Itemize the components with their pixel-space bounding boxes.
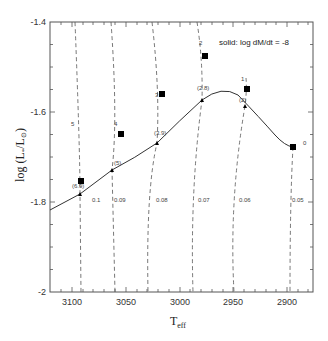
y-axis-ticks <box>50 45 313 270</box>
plot-frame <box>50 22 313 292</box>
curve-markers <box>78 98 247 196</box>
y-axis-title: log (L*/L⊙) <box>13 128 28 182</box>
square-marker <box>290 144 296 150</box>
x-tick-label: 3000 <box>170 297 190 307</box>
x-axis-title: Teff <box>170 314 186 330</box>
track-0.08 <box>148 22 158 292</box>
solid-mass-loss-curve <box>50 91 293 210</box>
curve-label: (2.8) <box>197 85 209 91</box>
track-label: 0.05 <box>292 197 304 203</box>
y-tick-label: -1.6 <box>30 107 46 117</box>
x-axis-ticks <box>61 22 308 292</box>
curve-label: (3.9) <box>154 130 166 136</box>
track-label: 0.07 <box>198 197 210 203</box>
square-label: 2 <box>199 40 203 46</box>
track-label: 0.1 <box>92 197 101 203</box>
square-marker <box>118 131 124 137</box>
track-0.07 <box>192 22 202 292</box>
curve-label: (5) <box>114 160 121 166</box>
square-marker <box>159 91 165 97</box>
triangle-marker <box>243 104 247 108</box>
y-tick-label: -2 <box>38 287 46 297</box>
square-label: 5 <box>71 121 75 127</box>
square-label: 3 <box>155 92 159 98</box>
square-points <box>78 53 296 184</box>
x-tick-label: 3050 <box>116 297 136 307</box>
square-label: 0 <box>303 140 307 146</box>
square-marker <box>78 178 84 184</box>
x-tick-label: 2950 <box>223 297 243 307</box>
track-0.06 <box>233 78 247 292</box>
hr-diagram-chart: -1.4 -1.6 -1.8 -2 3100 3050 3000 2950 29… <box>0 0 328 341</box>
triangle-marker <box>110 168 114 172</box>
track-label: 0.06 <box>239 197 251 203</box>
square-label: 1 <box>241 76 245 82</box>
curve-label: (2) <box>239 97 246 103</box>
square-marker <box>202 53 208 59</box>
y-tick-label: -1.8 <box>30 197 46 207</box>
y-tick-label: -1.4 <box>30 17 46 27</box>
track-0.05 <box>290 147 293 292</box>
track-label: 0.09 <box>114 197 126 203</box>
x-tick-label: 3100 <box>62 297 82 307</box>
x-tick-label: 2900 <box>277 297 297 307</box>
square-label: 4 <box>114 121 118 127</box>
track-0.1 <box>75 22 81 292</box>
dashed-tracks <box>75 22 293 292</box>
track-label: 0.08 <box>156 197 168 203</box>
legend-annotation: solid: log dM/dt = -8 <box>219 38 290 47</box>
square-marker <box>244 86 250 92</box>
track-0.09 <box>111 22 115 292</box>
